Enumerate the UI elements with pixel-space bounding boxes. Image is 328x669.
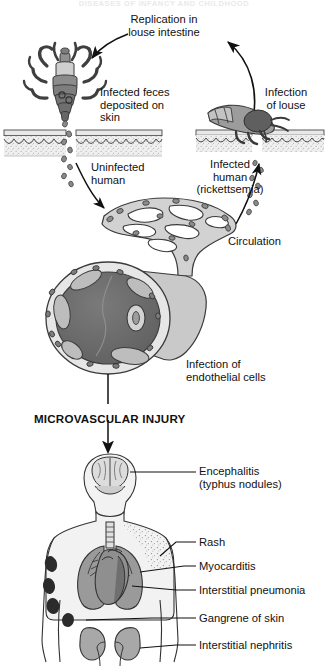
label-encephalitis-typhus-nodules: Encephalitis (typhus nodules) [199, 465, 323, 490]
label-myocarditis: Myocarditis [199, 560, 256, 573]
label-uninfected-human: Uninfected human [91, 161, 171, 186]
vessel-cross-section-illustration [45, 262, 206, 374]
label-infection-of-louse: Infection of louse [248, 86, 324, 111]
human-body-illustration [42, 454, 178, 666]
label-rash: Rash [199, 536, 225, 549]
skin-layer-left [4, 130, 162, 156]
label-infection-of-endothelial-cells: Infection of endothelial cells [186, 358, 296, 383]
label-circulation: Circulation [228, 235, 281, 248]
label-gangrene-of-skin: Gangrene of skin [199, 612, 284, 625]
label-infected-feces-deposited-on-skin: Infected feces deposited on skin [100, 86, 186, 124]
typhus-pathogenesis-figure: DISEASES OF INFANCY AND CHILDHOOD [0, 0, 328, 669]
label-infected-human-rickettsemia: Infected human (rickettsemia) [183, 158, 277, 196]
label-replication-in-louse-intestine: Replication in louse intestine [106, 13, 222, 38]
label-interstitial-nephritis: Interstitial nephritis [199, 639, 292, 652]
label-microvascular-injury: MICROVASCULAR INJURY [34, 413, 186, 426]
louse-dorsal-illustration [24, 43, 106, 121]
label-interstitial-pneumonia: Interstitial pneumonia [199, 584, 305, 597]
